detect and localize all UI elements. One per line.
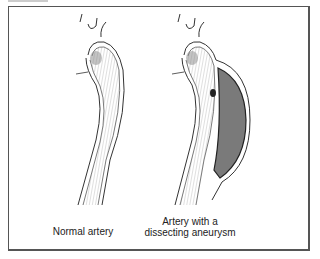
normal-artery	[76, 14, 124, 205]
label-normal-artery: Normal artery	[38, 226, 128, 237]
label-dissecting-line2: dissecting aneurysm	[130, 227, 250, 238]
label-dissecting-artery: Artery with a dissecting aneurysm	[130, 216, 250, 238]
label-dissecting-line1: Artery with a	[130, 216, 250, 227]
dissecting-artery	[172, 14, 250, 205]
